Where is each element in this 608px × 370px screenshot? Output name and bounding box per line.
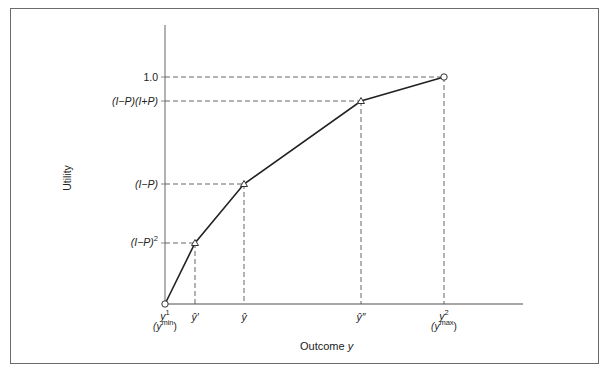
point-y-max-circle-icon bbox=[441, 74, 447, 80]
y-tick-one-minus-p: (I−P) bbox=[38, 179, 158, 190]
guide-lines bbox=[165, 77, 444, 304]
x-tick-y-hat-double-prime: ŷ″ bbox=[336, 312, 386, 323]
x-tick-y-hat: ŷ bbox=[219, 312, 269, 323]
x-tick-y-hat-prime: ŷ′ bbox=[170, 312, 220, 323]
x-tick-y-min: (ymin) bbox=[140, 322, 190, 332]
y-tick-one-minus-p-times-one-plus-p: (I−P)(I+P) bbox=[38, 96, 158, 107]
utility-curve bbox=[165, 77, 444, 304]
y-tick-1-0: 1.0 bbox=[38, 72, 158, 83]
point-y-min-circle-icon bbox=[162, 301, 168, 307]
y-tick-one-minus-p-squared: (I−P)2 bbox=[38, 237, 158, 248]
x-axis-title: Outcome y bbox=[300, 340, 353, 352]
x-tick-y-max: (ymax) bbox=[419, 322, 469, 332]
